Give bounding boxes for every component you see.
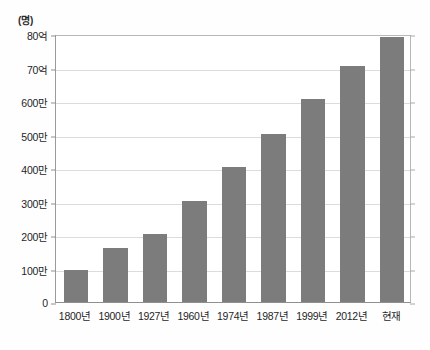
y-axis-tick-label: 400만: [0, 162, 48, 177]
x-axis-tick-label: 1999년: [292, 308, 332, 323]
y-tick-mark-right: [410, 270, 415, 271]
y-tick-mark: [51, 270, 56, 271]
bar: [261, 134, 286, 303]
x-axis-tick-label: 1987년: [253, 308, 293, 323]
y-tick-mark-right: [410, 36, 415, 37]
bar: [143, 234, 168, 302]
y-axis-tick-label: 100만: [0, 262, 48, 277]
y-axis-tick-label: 0: [0, 297, 48, 309]
y-tick-mark: [51, 170, 56, 171]
x-axis-tick-label: 1800년: [55, 308, 95, 323]
x-axis-tick-label: 1974년: [213, 308, 253, 323]
y-axis-unit-label: (명): [18, 12, 33, 27]
y-tick-mark-right: [410, 237, 415, 238]
bar: [340, 66, 365, 302]
y-tick-mark: [51, 237, 56, 238]
x-axis-tick-label: 2012년: [332, 308, 372, 323]
y-axis-tick-label: 500만: [0, 128, 48, 143]
y-tick-mark-right: [410, 69, 415, 70]
population-bar-chart: (명) 0100만200만300만400만500만600만70억80억 1800…: [0, 0, 430, 350]
x-axis-tick-label: 1960년: [174, 308, 214, 323]
bar: [64, 270, 89, 302]
y-tick-mark-right: [410, 103, 415, 104]
bar: [380, 37, 405, 302]
x-axis-tick-label: 1927년: [134, 308, 174, 323]
y-axis-tick-label: 70억: [0, 61, 48, 76]
y-tick-mark: [51, 203, 56, 204]
y-tick-mark-right: [410, 203, 415, 204]
y-tick-mark-right: [410, 136, 415, 137]
plot-area: [55, 35, 411, 303]
y-tick-mark: [51, 69, 56, 70]
bar: [182, 201, 207, 302]
x-axis-tick-label: 1900년: [95, 308, 135, 323]
y-tick-mark: [51, 304, 56, 305]
y-tick-mark-right: [410, 170, 415, 171]
y-axis-tick-label: 80억: [0, 28, 48, 43]
bar: [222, 167, 247, 302]
y-axis-tick-label: 600만: [0, 95, 48, 110]
y-axis-tick-label: 300만: [0, 195, 48, 210]
bar: [301, 99, 326, 302]
y-tick-mark: [51, 103, 56, 104]
y-tick-mark-right: [410, 304, 415, 305]
y-axis-tick-label: 200만: [0, 229, 48, 244]
y-tick-mark: [51, 136, 56, 137]
bar: [103, 248, 128, 302]
y-tick-mark: [51, 36, 56, 37]
x-axis-tick-label: 현재: [371, 308, 411, 323]
